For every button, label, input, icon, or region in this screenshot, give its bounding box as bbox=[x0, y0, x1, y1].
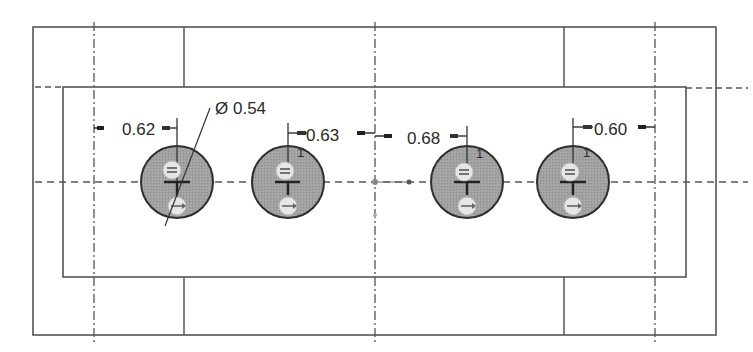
drawing-canvas[interactable] bbox=[0, 0, 753, 352]
dimension-label-1[interactable]: 0.62 bbox=[122, 121, 155, 138]
equal-icon[interactable] bbox=[561, 163, 579, 181]
hole-marker-4: 1 bbox=[583, 146, 590, 159]
diameter-annotation[interactable]: Ø 0.54 bbox=[215, 100, 266, 117]
hole-marker-3: 1 bbox=[476, 147, 483, 160]
horizontal-align-icon[interactable] bbox=[564, 197, 582, 215]
equal-icon[interactable] bbox=[163, 161, 181, 179]
lower-reference-point[interactable] bbox=[373, 213, 377, 217]
hole-3[interactable] bbox=[431, 126, 503, 218]
equal-icon[interactable] bbox=[276, 162, 294, 180]
diameter-value: 0.54 bbox=[233, 99, 266, 118]
horizontal-align-icon[interactable] bbox=[458, 197, 476, 215]
reference-point[interactable] bbox=[407, 180, 412, 185]
equal-icon[interactable] bbox=[455, 163, 473, 181]
dimension-label-3[interactable]: 0.68 bbox=[407, 130, 440, 147]
diameter-symbol: Ø bbox=[215, 99, 228, 118]
horizontal-align-icon[interactable] bbox=[279, 197, 297, 215]
origin-point[interactable] bbox=[372, 179, 378, 185]
dimension-label-2[interactable]: 0.63 bbox=[306, 127, 339, 144]
dimension-label-4[interactable]: 0.60 bbox=[594, 121, 627, 138]
hole-marker-2: 1 bbox=[297, 146, 304, 159]
